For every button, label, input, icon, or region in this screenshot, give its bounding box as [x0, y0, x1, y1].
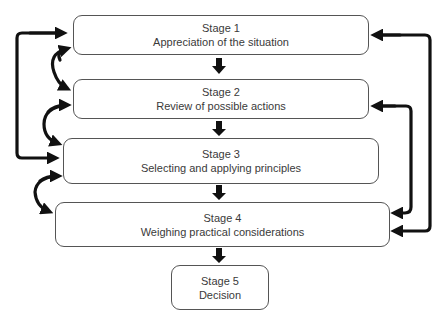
- stage-5-title: Stage 5: [201, 274, 239, 288]
- stage-2-label: Review of possible actions: [156, 99, 286, 113]
- down-arrow-1-2: [212, 58, 226, 74]
- stage-4-title: Stage 4: [204, 211, 242, 225]
- stage-1-label: Appreciation of the situation: [153, 35, 289, 49]
- stage-5-box: Stage 5 Decision: [171, 265, 269, 310]
- stage-3-box: Stage 3 Selecting and applying principle…: [63, 138, 379, 184]
- right-outer-loop-arrow-stage1-stage4: [378, 35, 430, 231]
- stage-3-label: Selecting and applying principles: [141, 161, 301, 175]
- right-inner-loop-arrow-stage2-stage4: [378, 106, 411, 213]
- down-arrow-4-5: [212, 248, 226, 263]
- down-arrow-2-3: [212, 121, 226, 136]
- stage-3-title: Stage 3: [202, 147, 240, 161]
- curved-arrow-stage3-stage4: [35, 176, 57, 211]
- stage-1-box: Stage 1 Appreciation of the situation: [73, 15, 369, 55]
- stage-5-label: Decision: [199, 288, 241, 302]
- left-loop-arrow-stage1-stage3: [17, 33, 62, 158]
- stage-2-title: Stage 2: [202, 85, 240, 99]
- stage-4-box: Stage 4 Weighing practical consideration…: [55, 202, 390, 247]
- stage-1-title: Stage 1: [202, 21, 240, 35]
- stage-2-box: Stage 2 Review of possible actions: [73, 79, 369, 119]
- down-arrow-3-4: [212, 185, 226, 200]
- stage-4-label: Weighing practical considerations: [141, 225, 305, 239]
